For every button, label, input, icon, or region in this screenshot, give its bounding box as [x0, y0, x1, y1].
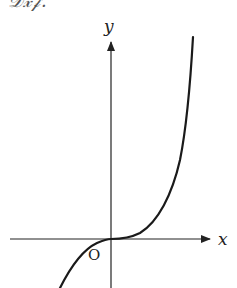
y-axis-label: y: [103, 16, 114, 36]
x-axis-label: x: [218, 229, 228, 249]
cubic-curve: [60, 37, 193, 288]
origin-label: O: [88, 246, 100, 264]
graph: y x O: [0, 0, 237, 288]
